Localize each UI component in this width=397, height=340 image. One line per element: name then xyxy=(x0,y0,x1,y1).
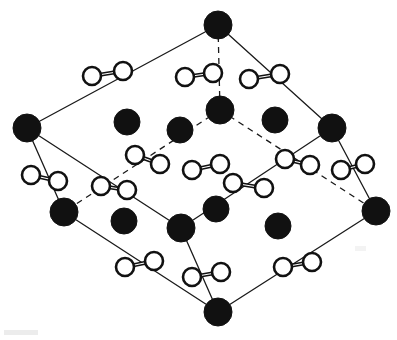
open-atom-10b xyxy=(145,252,163,270)
open-atom-12a xyxy=(274,258,292,276)
filled-atom-9 xyxy=(203,196,229,222)
open-atom-11b xyxy=(212,263,230,281)
open-atom-5a xyxy=(92,177,110,195)
open-atom-1a xyxy=(176,68,194,86)
crystal-structure-figure: Crystal structure unit cell diagram Mono… xyxy=(0,0,397,340)
filled-atom-2 xyxy=(318,114,346,142)
open-atom-4a xyxy=(22,166,40,184)
open-atom-0b xyxy=(114,62,132,80)
filled-atom-0 xyxy=(204,11,232,39)
filled-atom-12 xyxy=(362,197,390,225)
open-atom-10a xyxy=(116,258,134,276)
open-atom-12b xyxy=(303,253,321,271)
open-atom-6a xyxy=(183,161,201,179)
open-atom-1b xyxy=(204,64,222,82)
open-atom-8b xyxy=(301,156,319,174)
filled-atom-7 xyxy=(50,198,78,226)
filled-atom-5 xyxy=(167,117,193,143)
open-atom-4b xyxy=(49,172,67,190)
scan-artifact-right xyxy=(355,246,366,251)
crystal-structure-svg xyxy=(0,0,397,340)
filled-atom-13 xyxy=(204,298,232,326)
filled-atom-4 xyxy=(114,109,140,135)
open-atom-2b xyxy=(271,65,289,83)
open-atom-2a xyxy=(240,70,258,88)
open-atom-5b xyxy=(118,181,136,199)
scan-artifact-left xyxy=(4,330,38,335)
open-atom-9b xyxy=(356,155,374,173)
open-atom-7b xyxy=(255,179,273,197)
filled-atom-8 xyxy=(111,208,137,234)
open-atom-0a xyxy=(83,67,101,85)
filled-atom-6 xyxy=(262,107,288,133)
open-atom-11a xyxy=(183,268,201,286)
open-atom-9a xyxy=(332,161,350,179)
open-atom-3a xyxy=(126,146,144,164)
filled-atom-1 xyxy=(13,114,41,142)
open-atom-8a xyxy=(276,150,294,168)
open-atom-7a xyxy=(224,174,242,192)
filled-atom-3 xyxy=(206,96,234,124)
filled-atom-10 xyxy=(167,214,195,242)
open-atom-3b xyxy=(151,155,169,173)
filled-atom-11 xyxy=(265,213,291,239)
open-atom-6b xyxy=(211,155,229,173)
